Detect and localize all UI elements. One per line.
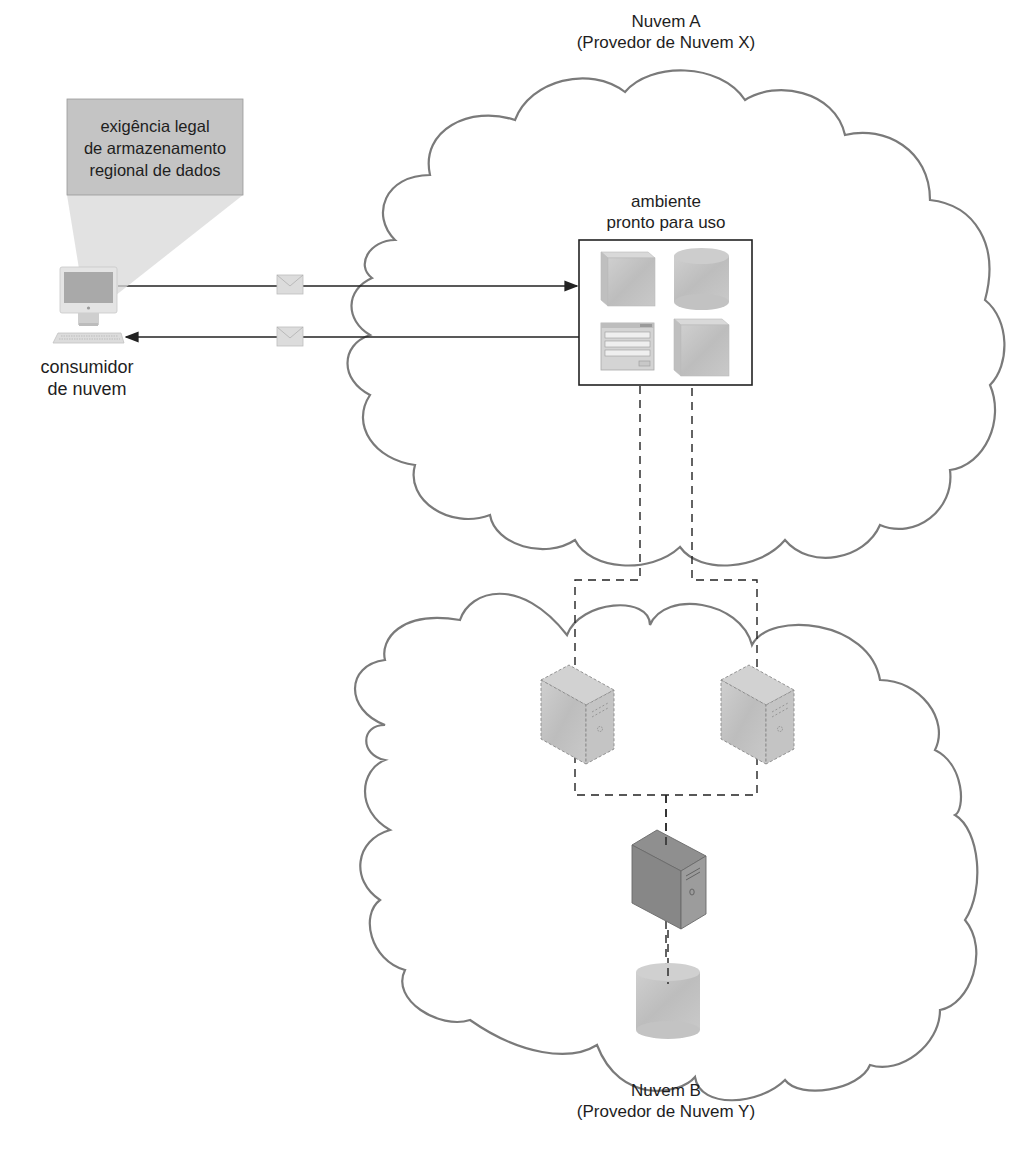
envelope-icon <box>277 327 303 346</box>
virtual-server-cube-icon <box>674 319 729 376</box>
callout-line1: exigência legal <box>67 115 243 137</box>
cloud-a-label: Nuvem A (Provedor de Nuvem X) <box>571 11 761 53</box>
callout-text: exigência legal de armazenamento regiona… <box>67 115 243 181</box>
cloud-b-title: Nuvem B <box>561 1080 771 1101</box>
consumer-label-line1: consumidor <box>22 356 152 378</box>
form-window-icon <box>601 323 654 370</box>
cloud-a-title: Nuvem A <box>571 11 761 32</box>
consumer-label: consumidor de nuvem <box>22 356 152 400</box>
consumer-label-line2: de nuvem <box>22 378 152 400</box>
workstation-icon[interactable] <box>53 267 124 343</box>
virtual-server-cube-icon <box>601 252 655 306</box>
environment-label: ambiente pronto para uso <box>566 191 766 233</box>
cloud-a-subtitle: (Provedor de Nuvem X) <box>571 32 761 53</box>
envelope-icon <box>277 275 303 294</box>
environment-label-line2: pronto para uso <box>566 212 766 233</box>
callout-line2: de armazenamento <box>67 137 243 159</box>
cloud-b-subtitle: (Provedor de Nuvem Y) <box>561 1101 771 1122</box>
database-cylinder-icon <box>674 248 729 310</box>
environment-label-line1: ambiente <box>566 191 766 212</box>
cloud-b-label: Nuvem B (Provedor de Nuvem Y) <box>561 1080 771 1122</box>
callout-line3: regional de dados <box>67 159 243 181</box>
